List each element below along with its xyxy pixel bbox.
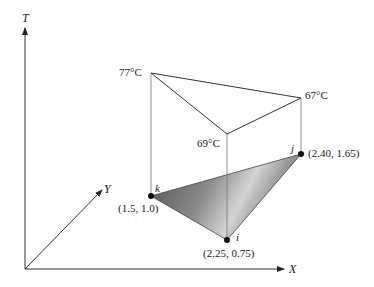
node-i-coords: (2.25, 0.75) [203, 248, 254, 259]
node-j-label: j [291, 143, 294, 154]
temperature-surface [151, 73, 301, 134]
node-k-dot [148, 193, 154, 199]
y-axis [25, 190, 102, 269]
y-axis-label: Y [104, 183, 111, 195]
temperature-label-j: 67°C [305, 90, 328, 101]
temperature-label-i: 69°C [197, 138, 220, 149]
node-j-coords: (2.40, 1.65) [308, 148, 359, 159]
triangle-element [151, 154, 301, 240]
node-k-coords: (1.5, 1.0) [118, 203, 158, 214]
triangular-element-diagram [0, 0, 374, 287]
node-k-label: k [155, 183, 160, 194]
x-axis-label: X [289, 263, 296, 275]
node-i-dot [224, 237, 230, 243]
temperature-label-k: 77°C [119, 67, 142, 78]
t-axis-label: T [22, 12, 29, 24]
node-j-dot [298, 151, 304, 157]
node-i-label: i [236, 232, 239, 243]
